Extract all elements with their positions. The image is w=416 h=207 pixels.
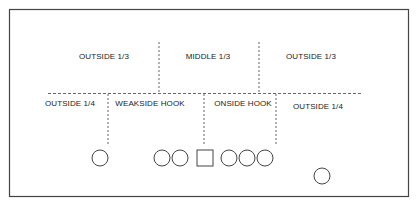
player-circle-icon <box>172 150 188 166</box>
center-square-icon <box>197 150 213 166</box>
offense-formation <box>92 150 330 184</box>
zone-coverage-diagram: OUTSIDE 1/3 MIDDLE 1/3 OUTSIDE 1/3 OUTSI… <box>0 0 416 207</box>
zone-label-outside-third-left: OUTSIDE 1/3 <box>79 52 129 61</box>
zone-label-middle-third: MIDDLE 1/3 <box>186 52 231 61</box>
zone-label-outside-quarter-right: OUTSIDE 1/4 <box>293 102 343 111</box>
zone-label-weakside-hook: WEAKSIDE HOOK <box>115 99 184 108</box>
player-circle-icon <box>221 150 237 166</box>
zone-label-onside-hook: ONSIDE HOOK <box>214 99 272 108</box>
zone-label-outside-third-right: OUTSIDE 1/3 <box>286 52 336 61</box>
player-circle-icon <box>239 150 255 166</box>
player-circle-icon <box>154 150 170 166</box>
player-circle-icon <box>257 150 273 166</box>
player-circle-icon <box>314 168 330 184</box>
zone-label-outside-quarter-left: OUTSIDE 1/4 <box>45 99 95 108</box>
player-circle-icon <box>92 150 108 166</box>
